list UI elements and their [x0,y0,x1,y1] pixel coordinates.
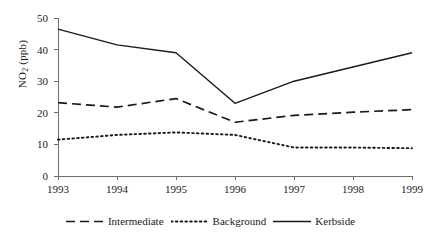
legend-label: Background [213,215,267,227]
legend-item-intermediate[interactable]: Intermediate [66,215,164,227]
x-axis-tick-label: 1993 [34,184,82,195]
x-axis-tick-label: 1995 [152,184,200,195]
x-axis-tick-label: 1996 [211,184,259,195]
legend-item-kerbside[interactable]: Kerbside [273,215,355,227]
x-axis-tick-label: 1998 [329,184,377,195]
legend-swatch-dashed [66,217,104,226]
legend-label: Kerbside [315,215,355,227]
legend-item-background[interactable]: Background [171,215,267,227]
x-axis-tick-label: 1994 [93,184,141,195]
x-axis-tick-label: 1997 [270,184,318,195]
x-axis-tick-label: 1999 [388,184,428,195]
chart-legend: IntermediateBackgroundKerbside [0,215,421,227]
legend-swatch-dotted [171,217,209,226]
legend-label: Intermediate [108,215,164,227]
legend-swatch-solid [273,217,311,226]
